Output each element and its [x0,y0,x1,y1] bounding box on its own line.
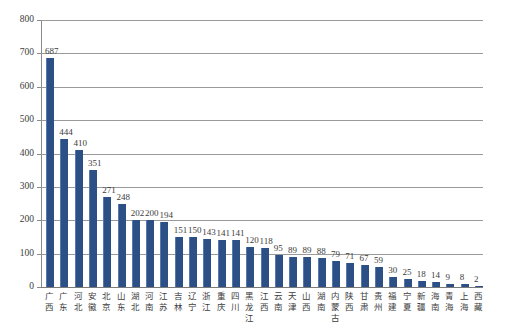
bar[interactable] [246,247,254,287]
gridline-700 [41,53,483,54]
bar[interactable] [461,284,469,287]
y-tick-label-600: 600 [0,82,34,92]
bar-value-label: 59 [374,256,383,265]
x-axis-label: 湖南 [315,291,328,313]
x-axis-label: 陕西 [343,291,356,313]
bar-value-label: 79 [331,250,340,259]
bar[interactable] [389,277,397,287]
bar[interactable] [361,265,369,287]
y-tick-label-800: 800 [0,15,34,25]
bar-value-label: 687 [45,47,59,56]
bar[interactable] [232,240,240,287]
bar-value-label: 2 [474,275,479,284]
bar[interactable] [118,204,126,287]
gridline-600 [41,87,483,88]
bar[interactable] [132,220,140,287]
bar[interactable] [75,150,83,287]
bar-value-label: 248 [117,193,131,202]
x-axis-label: 天津 [286,291,299,313]
x-axis-label: 吉林 [172,291,185,313]
x-axis-label: 江西 [258,291,271,313]
bar[interactable] [218,240,226,287]
bar-value-label: 271 [102,186,116,195]
x-axis-label: 北京 [100,291,113,313]
bar[interactable] [103,197,111,287]
x-axis-label: 宁夏 [401,291,414,313]
gridline-500 [41,120,483,121]
bar[interactable] [46,58,54,287]
y-tick-label-200: 200 [0,215,34,225]
x-axis-label: 福建 [386,291,399,313]
bar[interactable] [275,255,283,287]
bar[interactable] [60,139,68,287]
bar-value-label: 351 [88,159,102,168]
bar-value-label: 9 [445,273,450,282]
x-axis-label: 山东 [115,291,128,313]
bar-value-label: 194 [159,211,173,220]
bar-value-label: 141 [217,229,231,238]
gridline-0 [41,287,483,288]
bar-value-label: 151 [174,226,188,235]
bar[interactable] [175,237,183,287]
bar-value-label: 89 [302,246,311,255]
bar-value-label: 150 [188,226,202,235]
bar[interactable] [160,222,168,287]
x-axis-label: 江苏 [157,291,170,313]
bar[interactable] [146,220,154,287]
x-axis-label: 内蒙古 [329,291,342,324]
x-axis-label: 上海 [458,291,471,313]
x-axis-label: 河北 [72,291,85,313]
bar-value-label: 202 [131,209,145,218]
bar-value-label: 14 [431,271,440,280]
bar[interactable] [404,279,412,287]
x-axis-label: 四川 [229,291,242,313]
bar-value-label: 120 [245,236,259,245]
bar[interactable] [332,261,340,287]
bar-value-label: 143 [202,228,216,237]
x-axis-label: 山西 [300,291,313,313]
bar[interactable] [318,258,326,287]
bar[interactable] [203,239,211,287]
x-axis-label: 西藏 [472,291,485,313]
bar[interactable] [446,284,454,287]
bar[interactable] [303,257,311,287]
bar[interactable] [261,248,269,287]
bar[interactable] [346,263,354,287]
x-axis-label: 黑龙江 [243,291,256,324]
x-axis-label: 重庆 [215,291,228,313]
x-axis-label: 广西 [43,291,56,313]
x-axis-label: 浙江 [200,291,213,313]
x-axis-label: 青海 [443,291,456,313]
bar[interactable] [289,257,297,287]
bar-value-label: 89 [288,246,297,255]
x-axis-label: 河南 [143,291,156,313]
bar[interactable] [375,267,383,287]
bar-value-label: 141 [231,229,245,238]
y-tick-label-300: 300 [0,182,34,192]
bar-value-label: 71 [345,252,354,261]
y-tick-label-400: 400 [0,149,34,159]
x-axis-label: 广东 [57,291,70,313]
y-tick-label-700: 700 [0,48,34,58]
bar-value-label: 95 [274,244,283,253]
x-axis-label: 甘肃 [358,291,371,313]
bar[interactable] [189,237,197,287]
x-axis-label: 湖北 [129,291,142,313]
bar-value-label: 88 [317,247,326,256]
x-axis-label: 云南 [272,291,285,313]
gridline-800 [41,20,483,21]
bar-value-label: 410 [74,139,88,148]
bar-value-label: 67 [360,254,369,263]
bar[interactable] [89,170,97,287]
x-axis-label: 海南 [429,291,442,313]
bar-value-label: 118 [260,237,273,246]
bar[interactable] [475,286,483,287]
bar[interactable] [432,282,440,287]
gridline-400 [41,154,483,155]
bar-chart: 0100200300400500600700800 68744441035127… [0,0,506,334]
bar-value-label: 25 [403,268,412,277]
bar[interactable] [418,281,426,287]
bar-value-label: 8 [460,273,465,282]
x-axis-label: 安徽 [86,291,99,313]
bar-value-label: 30 [388,266,397,275]
